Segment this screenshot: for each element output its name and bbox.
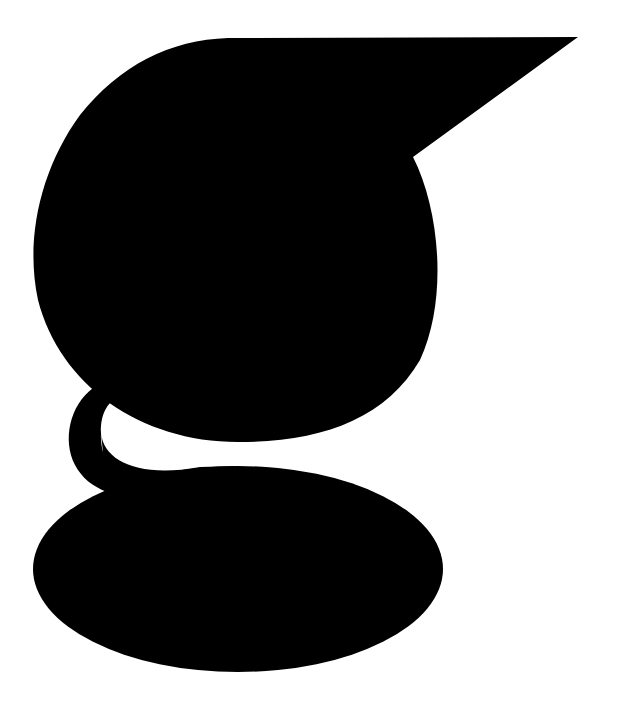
upper-bowl-shape bbox=[33, 37, 578, 442]
lower-bowl-shape bbox=[33, 466, 443, 672]
letter-g-graphic bbox=[0, 0, 618, 701]
